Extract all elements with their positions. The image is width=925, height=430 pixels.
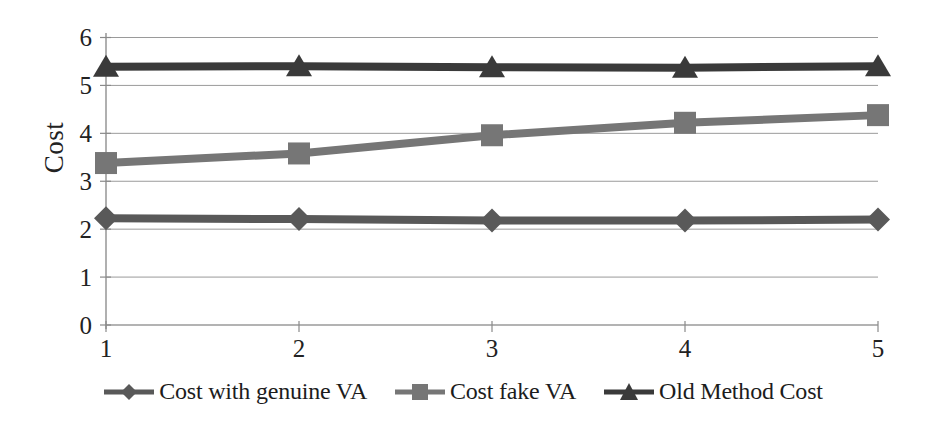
legend-item-old-method[interactable]: Old Method Cost — [602, 378, 823, 405]
square-data-point — [95, 152, 117, 174]
gridlines — [106, 38, 878, 326]
data-series-layer — [93, 54, 891, 232]
diamond-marker-icon — [102, 381, 156, 403]
triangle-marker-icon — [602, 381, 656, 403]
square-data-point — [481, 124, 503, 146]
diamond-data-point — [866, 208, 890, 232]
legend-item-genuine-va[interactable]: Cost with genuine VA — [102, 378, 367, 405]
chart-legend: Cost with genuine VA Cost fake VA Old Me… — [0, 378, 925, 405]
series-3 — [93, 54, 891, 77]
legend-label: Cost fake VA — [450, 378, 576, 405]
square-data-point — [867, 104, 889, 126]
cost-comparison-line-chart: Cost 6 5 4 3 2 1 0 1 2 3 4 5 Cost with g… — [0, 0, 925, 430]
diamond-data-point — [94, 206, 118, 230]
series-2 — [95, 104, 889, 174]
legend-item-fake-va[interactable]: Cost fake VA — [393, 378, 576, 405]
legend-label: Old Method Cost — [659, 378, 823, 405]
series-1 — [94, 206, 890, 232]
square-data-point — [288, 142, 310, 164]
square-data-point — [674, 112, 696, 134]
diamond-data-point — [287, 207, 311, 231]
square-marker-icon — [393, 381, 447, 403]
x-axis-tickmarks — [100, 38, 878, 333]
legend-label: Cost with genuine VA — [159, 378, 367, 405]
plot-area — [0, 0, 925, 430]
